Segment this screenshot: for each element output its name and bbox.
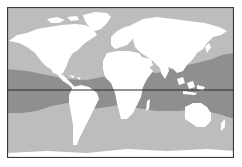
world-map	[7, 7, 234, 158]
world-map-svg	[7, 7, 234, 158]
